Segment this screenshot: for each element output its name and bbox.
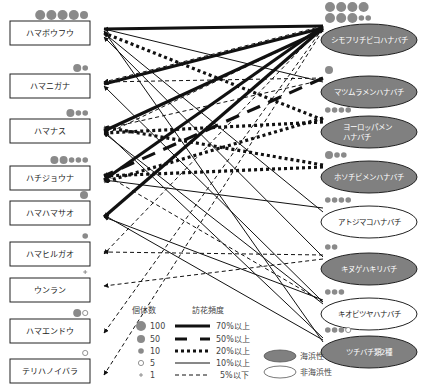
count-marker-open (83, 350, 88, 355)
count-marker-open (83, 310, 88, 315)
count-marker-plus (83, 270, 87, 274)
count-marker-50 (50, 156, 58, 164)
legend-freq-title: 訪花頻度 (192, 305, 224, 315)
plant-label: テリハノイバラ (22, 367, 78, 376)
count-marker-50 (60, 156, 68, 164)
legend-freq-label: 50%以上 (216, 335, 250, 344)
link-b6-p2 (104, 133, 323, 304)
count-marker-10 (339, 327, 345, 333)
link-b6-p3 (104, 174, 323, 302)
legend-count-label: 50 (150, 335, 160, 344)
link-b6-p1 (104, 86, 323, 302)
bee-label-line2: ハナバチ (343, 133, 371, 142)
link-b5-p6 (104, 259, 323, 286)
legend-count-title: 個体数 (132, 305, 156, 315)
count-marker-10 (339, 289, 345, 295)
count-marker-10 (345, 107, 351, 113)
count-marker-10 (332, 289, 338, 295)
count-marker-50 (80, 11, 88, 19)
plant-node: ハマボウフウ (10, 10, 90, 45)
count-marker-10 (82, 65, 88, 71)
plant-node: ハマナス (10, 109, 90, 143)
link-b7-p0 (104, 31, 323, 342)
count-marker-10 (332, 244, 338, 250)
count-marker-100 (58, 10, 68, 20)
count-marker-100 (325, 2, 335, 12)
plant-node: ハマニガナ (10, 64, 90, 98)
legend-freq-label: 10%以上 (216, 359, 250, 368)
count-marker-10 (334, 152, 340, 158)
count-marker-100 (35, 10, 45, 20)
count-marker-10 (339, 107, 345, 113)
link-b0-p0 (104, 26, 323, 29)
plant-label: ハマナス (34, 127, 66, 136)
count-marker-10 (325, 327, 331, 333)
bee-label: マツムラメンハナバチ (334, 88, 404, 97)
bee-label: ホソチビメンハナバチ (334, 173, 404, 182)
plant-label: ハチジョウナ (26, 174, 74, 183)
count-marker-100 (347, 2, 357, 12)
bee-label: ヨーロッパメン (343, 123, 392, 132)
count-marker-10 (325, 107, 331, 113)
plant-label: ハマニガナ (30, 81, 70, 91)
legend-seaside-swatch (264, 350, 296, 362)
count-marker-10 (82, 110, 88, 116)
count-marker-50 (66, 109, 74, 117)
count-marker-10 (82, 157, 88, 163)
plant-label: ハマボウフウ (26, 29, 74, 38)
count-marker-10 (82, 233, 88, 239)
plant-node: テリハノイバラ (10, 350, 90, 383)
count-marker-10 (325, 289, 331, 295)
bee-node: ツチバチ類2種 (321, 327, 417, 368)
legend-habitat-label: 非海浜性 (300, 367, 332, 377)
count-marker-10 (138, 348, 144, 354)
count-marker-10 (332, 197, 338, 203)
count-marker-10 (345, 197, 351, 203)
plant-node: ウンラン (10, 270, 90, 302)
count-marker-10 (325, 197, 331, 203)
plant-node: ハマエンドウ (10, 309, 90, 343)
legend-count-label: 10 (150, 347, 160, 356)
link-b7-p4 (104, 215, 323, 340)
bee-label: シモフリチビコハナバチ (331, 36, 408, 45)
bee-node: ホソチビメンハナバチ (321, 151, 417, 193)
count-marker-100 (69, 10, 79, 20)
count-marker-100 (359, 2, 369, 12)
legend-freq-label: 20%以上 (216, 347, 250, 356)
bee-label: ツチバチ類2種 (346, 347, 394, 357)
bee-node: マツムラメンハナバチ (321, 66, 417, 108)
plant-node: ハマヒルガオ (10, 233, 90, 266)
link-b6-p4 (104, 217, 323, 300)
link-b5-p5 (104, 252, 323, 255)
legend-habitat-label: 海浜性 (300, 351, 324, 361)
count-marker-plus (139, 373, 143, 377)
legend: 個体数100501051訪花頻度70%以上50%以上20%以上10%以上5%以下… (132, 305, 332, 380)
legend-freq-label: 5%以下 (220, 371, 249, 380)
bees-layer: シモフリチビコハナバチマツムラメンハナバチヨーロッパメンハナバチホソチビメンハナ… (321, 2, 417, 368)
count-marker-100 (336, 13, 346, 23)
plant-label: ウンラン (34, 286, 66, 295)
bee-node: キヌゲハキリバチ (321, 244, 417, 285)
legend-non-seaside-swatch (264, 366, 296, 378)
plant-node: ハマハマサオ (10, 191, 90, 225)
bee-node: ヨーロッパメンハナバチ (321, 107, 417, 148)
bee-node: キオビツヤハナバチ (321, 289, 417, 330)
count-marker-100 (136, 321, 146, 331)
bee-label: キオビツヤハナバチ (338, 310, 401, 319)
legend-count-label: 100 (150, 322, 165, 331)
links-layer (104, 26, 323, 375)
plant-label: ハマエンドウ (26, 327, 74, 336)
count-marker-10 (365, 15, 371, 21)
count-marker-100 (46, 10, 56, 20)
count-marker-50 (325, 66, 333, 74)
count-marker-open (138, 360, 143, 365)
count-marker-10 (76, 110, 82, 116)
legend-freq-label: 70%以上 (216, 322, 250, 331)
legend-count-label: 5 (150, 359, 155, 368)
count-marker-10 (332, 107, 338, 113)
count-marker-50 (73, 64, 81, 72)
bee-label: キヌゲハキリバチ (341, 265, 397, 274)
count-marker-10 (341, 152, 347, 158)
legend-count-label: 1 (150, 371, 155, 380)
bee-node: シモフリチビコハナバチ (321, 2, 417, 56)
